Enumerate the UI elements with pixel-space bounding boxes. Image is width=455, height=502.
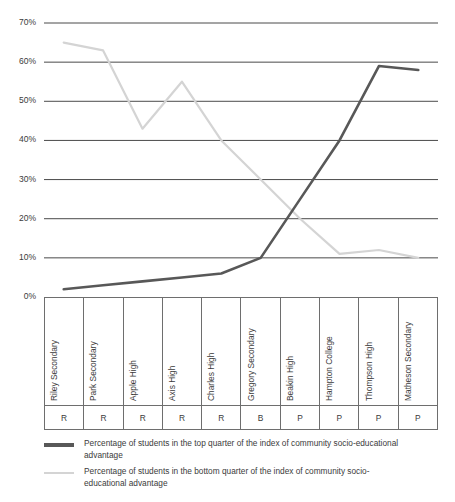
category-name-cell: Thompson High (359, 298, 397, 405)
category-column: Gregory SecondaryB (241, 298, 280, 429)
plot-area: 70%60%50%40%30%20%10%0% (0, 0, 455, 310)
legend-label: Percentage of students in the bottom qua… (84, 466, 404, 489)
sector-code-cell: P (399, 405, 437, 429)
category-column: Park SecondaryR (84, 298, 123, 429)
category-column: Matheson SecondaryP (399, 298, 437, 429)
category-column: Apple HighR (124, 298, 163, 429)
category-column: Hampton CollegeP (320, 298, 359, 429)
chart-legend: Percentage of students in the top quarte… (44, 438, 444, 494)
category-column: Charles HighR (202, 298, 241, 429)
sector-code-cell: R (45, 405, 83, 429)
series-line-bottom-quarter (64, 43, 419, 258)
category-label: Gregory Secondary (246, 328, 256, 401)
category-label: Riley Secondary (49, 340, 59, 401)
series-line-top-quarter (64, 66, 419, 289)
sector-code-cell: R (202, 405, 240, 429)
legend-color-swatch (44, 472, 74, 475)
category-label: Axis High (167, 366, 177, 401)
category-name-cell: Park Secondary (84, 298, 122, 405)
category-label: Apple High (128, 360, 138, 401)
category-name-cell: Axis High (163, 298, 201, 405)
category-label: Matheson Secondary (403, 322, 413, 401)
sector-code-cell: R (163, 405, 201, 429)
category-name-cell: Gregory Secondary (241, 298, 279, 405)
category-label: Park Secondary (88, 341, 98, 401)
category-label: Charles High (206, 353, 216, 401)
category-column: Beakin HighP (281, 298, 320, 429)
sector-code-cell: B (241, 405, 279, 429)
sector-code-cell: R (84, 405, 122, 429)
legend-label: Percentage of students in the top quarte… (84, 438, 404, 461)
category-label: Thompson High (364, 342, 374, 401)
category-column: Thompson HighP (359, 298, 398, 429)
category-column: Riley SecondaryR (45, 298, 84, 429)
legend-color-swatch (44, 443, 74, 447)
sector-code-cell: P (359, 405, 397, 429)
category-name-cell: Matheson Secondary (399, 298, 437, 405)
category-column: Axis HighR (163, 298, 202, 429)
category-label: Hampton College (324, 336, 334, 401)
chart-container: 70%60%50%40%30%20%10%0% Riley SecondaryR… (0, 0, 455, 502)
sector-code-cell: R (124, 405, 162, 429)
category-name-cell: Apple High (124, 298, 162, 405)
category-name-cell: Beakin High (281, 298, 319, 405)
legend-entry: Percentage of students in the top quarte… (44, 438, 444, 461)
line-chart-svg (0, 0, 455, 310)
category-name-cell: Riley Secondary (45, 298, 83, 405)
sector-code-cell: P (320, 405, 358, 429)
category-name-cell: Charles High (202, 298, 240, 405)
category-name-cell: Hampton College (320, 298, 358, 405)
category-label: Beakin High (285, 356, 295, 401)
legend-entry: Percentage of students in the bottom qua… (44, 466, 444, 489)
sector-code-cell: P (281, 405, 319, 429)
category-axis-table: Riley SecondaryRPark SecondaryRApple Hig… (44, 297, 438, 430)
